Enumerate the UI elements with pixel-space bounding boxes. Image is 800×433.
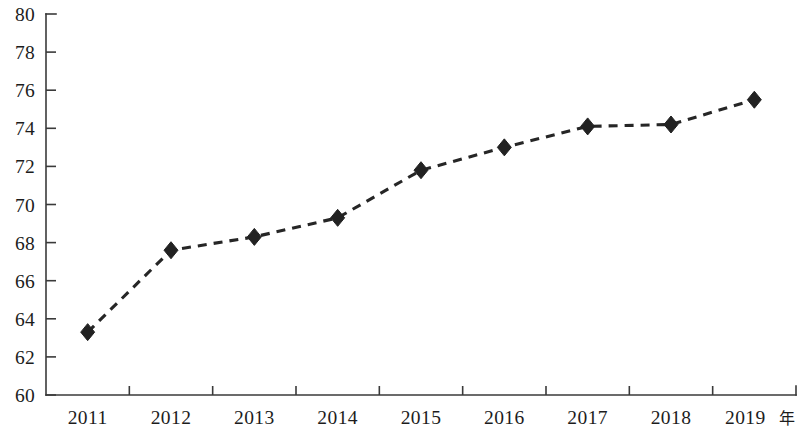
chart-canvas: 8078767472706866646260 20112012201320142… xyxy=(0,0,800,433)
x-tick-label: 2012 xyxy=(151,407,192,428)
data-point-hitarea[interactable] xyxy=(491,134,517,160)
x-axis-tick-labels: 201120122013201420152016201720182019 xyxy=(68,407,766,428)
data-point-hitarea[interactable] xyxy=(575,113,601,139)
x-tick-label: 2015 xyxy=(401,407,442,428)
y-tick-label: 70 xyxy=(15,195,35,216)
y-tick-label: 78 xyxy=(15,42,35,63)
x-tick-label: 2014 xyxy=(317,407,358,428)
y-tick-label: 64 xyxy=(15,309,35,330)
x-tick-label: 2016 xyxy=(484,407,525,428)
y-tick-label: 68 xyxy=(15,233,35,254)
chart-background xyxy=(0,0,800,433)
data-point-hitarea[interactable] xyxy=(75,319,101,345)
y-tick-label: 76 xyxy=(15,80,35,101)
y-tick-label: 66 xyxy=(15,271,35,292)
data-point-hitarea[interactable] xyxy=(408,157,434,183)
y-tick-label: 80 xyxy=(15,4,35,25)
x-tick-label: 2017 xyxy=(567,407,608,428)
data-point-hitarea[interactable] xyxy=(741,87,767,113)
x-axis-unit-label: 年 xyxy=(779,410,795,427)
line-chart: 8078767472706866646260 20112012201320142… xyxy=(0,0,800,433)
y-tick-label: 60 xyxy=(15,385,35,406)
y-tick-label: 72 xyxy=(15,156,35,177)
x-tick-label: 2018 xyxy=(651,407,692,428)
data-point-hitarea[interactable] xyxy=(658,111,684,137)
data-point-hitarea[interactable] xyxy=(325,205,351,231)
data-point-hitarea[interactable] xyxy=(241,224,267,250)
y-tick-label: 74 xyxy=(15,118,35,139)
y-tick-label: 62 xyxy=(15,347,35,368)
x-tick-label: 2013 xyxy=(234,407,275,428)
x-tick-label: 2019 xyxy=(725,407,766,428)
data-point-hitarea[interactable] xyxy=(158,237,184,263)
x-tick-label: 2011 xyxy=(68,407,108,428)
